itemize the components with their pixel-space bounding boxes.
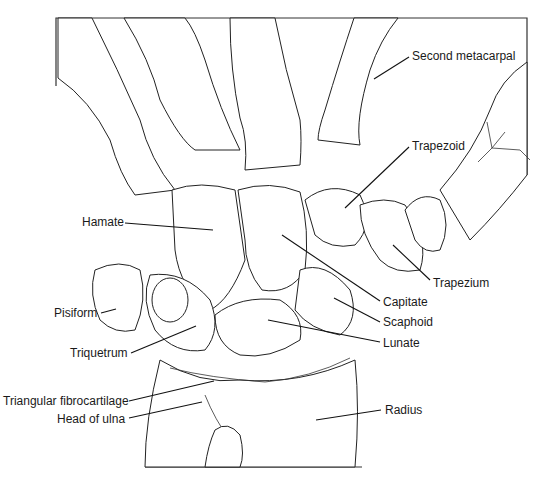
wrist-anatomy-figure: Second metacarpal Trapezoid Hamate Trape…	[0, 0, 558, 483]
leader-lines	[0, 0, 558, 483]
label-pisiform: Pisiform	[54, 306, 97, 320]
leader-line-second-metacarpal	[374, 57, 409, 79]
label-head-of-ulna: Head of ulna	[57, 412, 125, 426]
leader-line-triquetrum	[131, 326, 196, 353]
leader-line-head-of-ulna	[129, 402, 202, 418]
label-trapezium: Trapezium	[433, 276, 489, 290]
label-triquetrum: Triquetrum	[70, 346, 128, 360]
leader-line-capitate	[282, 235, 380, 301]
leader-line-scaphoid	[334, 298, 380, 322]
leader-line-radius	[316, 410, 381, 420]
label-hamate: Hamate	[82, 215, 124, 229]
label-capitate: Capitate	[383, 295, 428, 309]
leader-line-trapezoid	[345, 147, 409, 208]
leader-line-lunate	[268, 320, 380, 342]
label-scaphoid: Scaphoid	[383, 315, 433, 329]
label-triangular-fibrocartilage: Triangular fibrocartilage	[3, 394, 129, 408]
label-radius: Radius	[385, 403, 422, 417]
label-second-metacarpal: Second metacarpal	[412, 49, 515, 63]
leader-line-trapezium	[393, 245, 430, 280]
label-lunate: Lunate	[383, 336, 420, 350]
label-trapezoid: Trapezoid	[412, 139, 465, 153]
leader-line-triangular-fibrocartilage	[129, 381, 214, 401]
leader-line-hamate	[125, 223, 213, 230]
leader-line-pisiform	[101, 309, 116, 313]
